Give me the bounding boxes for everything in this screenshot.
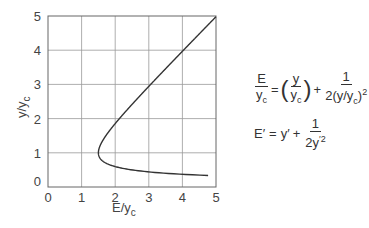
y-axis-label: y/yc [14,96,32,118]
y-tick-label: 4 [34,43,41,58]
y-tick-label: 2 [34,112,41,127]
equation-prime: E′ = y′ + 1 2y′2 [254,117,328,150]
energy-curve [98,17,215,176]
y-tick-label: 5 [34,9,41,24]
y-tick-label: 1 [34,146,41,161]
lhs-fraction: E yc [254,72,269,108]
x-axis-label: E/yc [112,200,136,218]
paren-fraction: y yc [289,72,304,108]
equation-dimensionless: E yc = ( y yc ) + 1 2(y/yc)2 [254,70,369,109]
rhs-fraction: 1 2(y/yc)2 [323,70,369,109]
x-tick-label: 0 [44,190,51,205]
y-tick-label: 0 [34,174,41,189]
x-tick-label: 1 [78,190,85,205]
x-tick-label: 4 [179,190,186,205]
x-tick-label: 3 [145,190,152,205]
prime-fraction: 1 2y′2 [303,117,327,150]
tick-labels: 012345012345 [34,9,220,205]
y-tick-label: 3 [34,77,41,92]
x-tick-label: 5 [212,190,219,205]
